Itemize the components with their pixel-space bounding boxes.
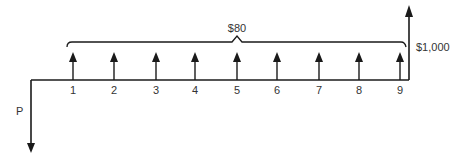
- arrow-up-icon: [355, 52, 363, 62]
- payment-arrow-8: [355, 52, 363, 80]
- cash-flow-diagram: P $1,000 $80 1 2 3 4 5 6 7 8 9: [0, 0, 467, 166]
- payment-arrow-3: [152, 52, 160, 80]
- period-labels: 1 2 3 4 5 6 7 8 9: [70, 84, 403, 96]
- payment-arrow-7: [315, 52, 323, 80]
- period-label: 2: [111, 84, 117, 96]
- arrow-up-icon: [233, 52, 241, 62]
- arrow-up-icon: [315, 52, 323, 62]
- final-payment-label: $1,000: [416, 41, 450, 53]
- arrow-up-icon: [273, 52, 281, 62]
- final-payment-arrow: [405, 5, 413, 80]
- arrow-up-icon: [69, 52, 77, 62]
- annuity-arrows: [69, 52, 404, 80]
- payment-arrow-6: [273, 52, 281, 80]
- annuity-brace: [67, 36, 406, 47]
- period-label: 6: [274, 84, 280, 96]
- present-value-arrow: [27, 80, 35, 153]
- period-label: 8: [356, 84, 362, 96]
- period-label: 7: [316, 84, 322, 96]
- arrow-up-icon: [152, 52, 160, 62]
- payment-arrow-2: [110, 52, 118, 80]
- arrow-up-icon: [396, 52, 404, 62]
- annuity-label: $80: [228, 22, 246, 34]
- arrow-up-icon: [191, 52, 199, 62]
- arrow-up-icon: [405, 5, 413, 17]
- arrow-down-icon: [27, 143, 35, 153]
- period-label: 5: [234, 84, 240, 96]
- payment-arrow-4: [191, 52, 199, 80]
- period-label: 3: [153, 84, 159, 96]
- present-value-label: P: [16, 105, 23, 117]
- arrow-up-icon: [110, 52, 118, 62]
- payment-arrow-5: [233, 52, 241, 80]
- period-label: 1: [70, 84, 76, 96]
- period-label: 4: [192, 84, 198, 96]
- payment-arrow-9: [396, 52, 404, 80]
- payment-arrow-1: [69, 52, 77, 80]
- period-label: 9: [397, 84, 403, 96]
